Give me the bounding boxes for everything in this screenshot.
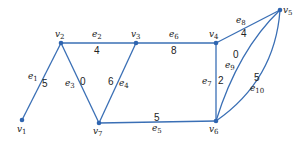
edge-weight-e2: 4: [94, 46, 100, 56]
edge-weight-e1: 5: [42, 79, 48, 89]
vertex-v4: [214, 41, 219, 46]
vertex-v6: [214, 119, 219, 124]
edge-weight-e8: 4: [241, 29, 247, 39]
vertex-label-v5: v5: [283, 6, 293, 17]
edge-label-e2: e2: [92, 30, 102, 41]
edge-weight-e9: 0: [233, 50, 239, 60]
vertex-v1: [20, 118, 25, 123]
vertex-v5: [278, 8, 283, 13]
edge-weight-e6: 8: [171, 46, 177, 56]
edge-label-e5: e5: [152, 124, 162, 135]
vertex-label-v6: v6: [209, 125, 219, 136]
edge-weight-e4: 6: [108, 77, 114, 87]
edge-label-e7: e7: [202, 77, 212, 88]
edge-weight-e3: 0: [80, 77, 86, 87]
vertex-v3: [134, 41, 139, 46]
edge-label-e1: e1: [28, 72, 38, 83]
graph-edges: [0, 0, 306, 143]
vertex-label-v4: v4: [209, 30, 219, 41]
edge-label-e8: e8: [236, 16, 246, 27]
edge-label-e4: e4: [119, 79, 129, 90]
edge-weight-e5: 5: [154, 113, 160, 123]
vertex-label-v2: v2: [55, 30, 65, 41]
edge-weight-e7: 2: [218, 76, 224, 86]
edge-label-e6: e6: [169, 30, 179, 41]
vertex-v7: [97, 121, 102, 126]
edge-e4: [99, 43, 136, 123]
vertex-v2: [59, 41, 64, 46]
edge-label-e10: e10: [250, 84, 264, 95]
edge-label-e3: e3: [65, 79, 75, 90]
vertex-label-v7: v7: [93, 127, 103, 138]
vertex-label-v3: v3: [131, 30, 141, 41]
graph-diagram: v1 v2 v3 v4 v5 v6 v7 e1 5 e2 4 e3 0 6 e4…: [0, 0, 306, 143]
edge-weight-e10: 5: [254, 73, 260, 83]
edge-e8: [216, 10, 280, 43]
vertex-label-v1: v1: [17, 125, 27, 136]
edge-label-e9: e9: [225, 61, 235, 72]
